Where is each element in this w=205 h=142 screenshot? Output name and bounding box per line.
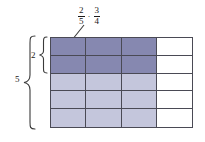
grid-cell-r3-c1	[51, 74, 86, 92]
grid-cell-r5-c3	[122, 109, 157, 127]
grid-cell-r3-c3	[122, 74, 157, 92]
brace-inner-2	[38, 36, 48, 74]
multiplication-dot-icon: ·	[88, 12, 91, 21]
grid-cell-r5-c2	[86, 109, 121, 127]
grid-cell-r1-c4	[157, 38, 192, 56]
grid-cell-r1-c2	[86, 38, 121, 56]
fraction-denominator: 4	[94, 17, 101, 27]
area-model-grid-wrapper	[50, 37, 193, 128]
grid-cell-r5-c1	[51, 109, 86, 127]
grid-cell-r3-c4	[157, 74, 192, 92]
brace-label-2: 2	[31, 51, 36, 60]
grid-cell-r4-c2	[86, 91, 121, 109]
grid-cell-r4-c4	[157, 91, 192, 109]
grid-cell-r2-c3	[122, 56, 157, 74]
fraction-numerator: 3	[94, 6, 101, 17]
grid-cell-r3-c2	[86, 74, 121, 92]
fraction-three-fourths: 3 4	[94, 6, 101, 26]
brace-label-5: 5	[15, 75, 20, 84]
fraction-two-fifths: 2 5	[78, 6, 85, 26]
fraction-denominator: 5	[78, 17, 85, 27]
grid-cell-r2-c2	[86, 56, 121, 74]
grid-cell-r2-c4	[157, 56, 192, 74]
grid-cell-r4-c1	[51, 91, 86, 109]
grid-cell-r4-c3	[122, 91, 157, 109]
grid-cell-r1-c1	[51, 38, 86, 56]
expression-label: 2 5 · 3 4	[78, 6, 100, 26]
grid-cell-r5-c4	[157, 109, 192, 127]
fraction-numerator: 2	[78, 6, 85, 17]
grid-cell-r1-c3	[122, 38, 157, 56]
grid-cell-r2-c1	[51, 56, 86, 74]
area-model-grid	[50, 37, 193, 128]
figure-canvas: 2 5 · 3 4 5 2	[0, 0, 205, 142]
